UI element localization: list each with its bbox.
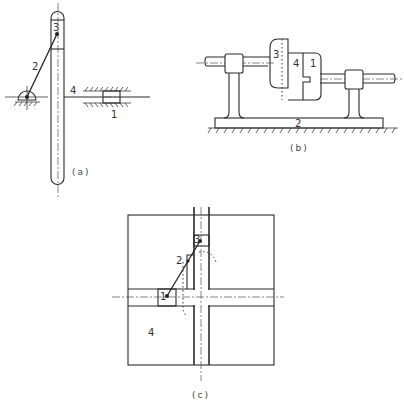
fig-b-left-pedestal (224, 73, 244, 118)
fig-b-left-bearing (225, 54, 243, 73)
mechanism-diagram: 3 2 4 1 (a) (0, 0, 404, 409)
fig-b-left-shaft-end (205, 57, 207, 66)
figure-b: 3 4 1 2 (b) (196, 39, 404, 153)
figure-a: 3 2 4 1 (a) (5, 3, 150, 198)
fig-b-caption: (b) (290, 143, 309, 153)
fig-b-right-shaft-end (393, 74, 395, 83)
fig-a-label-4: 4 (70, 85, 76, 96)
fig-b-label-4: 4 (293, 58, 299, 69)
fig-a-pivot-point (25, 95, 29, 99)
fig-a-label-1: 1 (111, 109, 117, 120)
fig-c-label-1: 1 (160, 291, 166, 302)
fig-b-right-pedestal (344, 89, 364, 118)
fig-a-slotted-bar (51, 12, 64, 185)
fig-a-label-3: 3 (53, 22, 59, 33)
fig-c-label-3: 3 (194, 234, 200, 245)
fig-a-caption: (a) (72, 167, 91, 177)
fig-b-label-2: 2 (295, 118, 301, 129)
figure-c: 3 2 1 4 (c) (112, 207, 284, 400)
fig-a-guide-bottom (83, 103, 131, 107)
fig-b-coupling-tongue (303, 77, 310, 100)
fig-b-label-3: 3 (273, 49, 279, 60)
fig-a-label-2: 2 (32, 61, 38, 72)
fig-c-link-midpoint (186, 259, 189, 262)
fig-c-label-4: 4 (148, 327, 154, 338)
fig-b-label-1: 1 (310, 58, 316, 69)
fig-a-guide-top (83, 87, 131, 91)
fig-b-ground-hatch (208, 128, 398, 133)
fig-b-disc-3 (270, 39, 288, 88)
fig-c-caption: (c) (192, 390, 210, 400)
fig-c-label-2: 2 (176, 255, 182, 266)
fig-b-right-bearing (345, 70, 363, 89)
